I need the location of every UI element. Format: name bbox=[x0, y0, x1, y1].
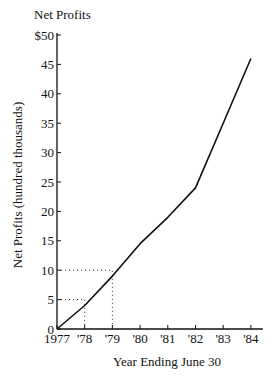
x-tick-label: '78 bbox=[77, 331, 92, 346]
y-tick-label: $50 bbox=[35, 28, 55, 43]
y-axis: 051015202530354045$50 bbox=[35, 28, 62, 337]
y-tick-label: 45 bbox=[41, 57, 54, 72]
x-tick-label: '81 bbox=[160, 331, 175, 346]
x-tick-label: '79 bbox=[105, 331, 120, 346]
y-tick-label: 15 bbox=[41, 233, 54, 248]
x-tick-label: '84 bbox=[243, 331, 259, 346]
x-tick-label: '80 bbox=[132, 331, 147, 346]
x-tick-label: '83 bbox=[216, 331, 231, 346]
y-axis-label: Net Profits (hundred thousands) bbox=[10, 102, 25, 268]
x-axis-label: Year Ending June 30 bbox=[113, 354, 221, 369]
y-tick-label: 40 bbox=[41, 86, 54, 101]
dotted-guides bbox=[57, 270, 112, 329]
chart-title: Net Profits bbox=[34, 7, 91, 22]
y-tick-label: 25 bbox=[41, 175, 54, 190]
x-axis: 1977'78'79'80'81'82'83'84 bbox=[44, 325, 263, 346]
x-tick-label: '82 bbox=[188, 331, 203, 346]
y-tick-label: 5 bbox=[48, 292, 55, 307]
x-tick-label: 1977 bbox=[44, 331, 71, 346]
net-profits-line bbox=[57, 59, 251, 330]
y-tick-label: 35 bbox=[41, 116, 54, 131]
y-tick-label: 20 bbox=[41, 204, 54, 219]
y-tick-label: 30 bbox=[41, 145, 54, 160]
net-profits-line-chart: Net Profits 051015202530354045$50 1977'7… bbox=[0, 0, 277, 376]
y-tick-label: 10 bbox=[41, 263, 54, 278]
